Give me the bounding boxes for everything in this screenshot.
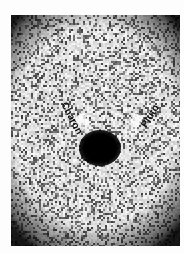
astronomical-photo: Charon Pluto	[11, 15, 180, 246]
pluto-charon-blob	[79, 130, 121, 166]
